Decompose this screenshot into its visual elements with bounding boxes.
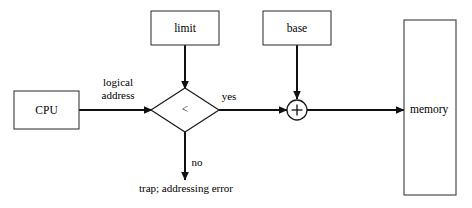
no-branch-label: no [192,156,204,168]
node-limit[interactable]: limit [151,11,219,45]
limit-label: limit [174,22,197,34]
trap-addressing-error-label: trap; addressing error [139,182,233,194]
base-label: base [287,22,307,34]
node-compare[interactable]: < [151,88,219,132]
node-memory[interactable]: memory [404,20,456,195]
diagram-canvas: CPU limit base < memory logical [0,0,472,208]
yes-branch-label: yes [222,90,237,102]
logical-address-label-line2: address [102,89,135,101]
address-protection-diagram: CPU limit base < memory logical [0,0,472,208]
logical-address-label-line1: logical [103,76,133,88]
node-adder[interactable] [287,100,307,120]
memory-label: memory [410,103,449,116]
compare-label: < [182,103,189,115]
node-base[interactable]: base [263,11,331,45]
cpu-label: CPU [35,104,58,116]
node-cpu[interactable]: CPU [14,91,79,129]
